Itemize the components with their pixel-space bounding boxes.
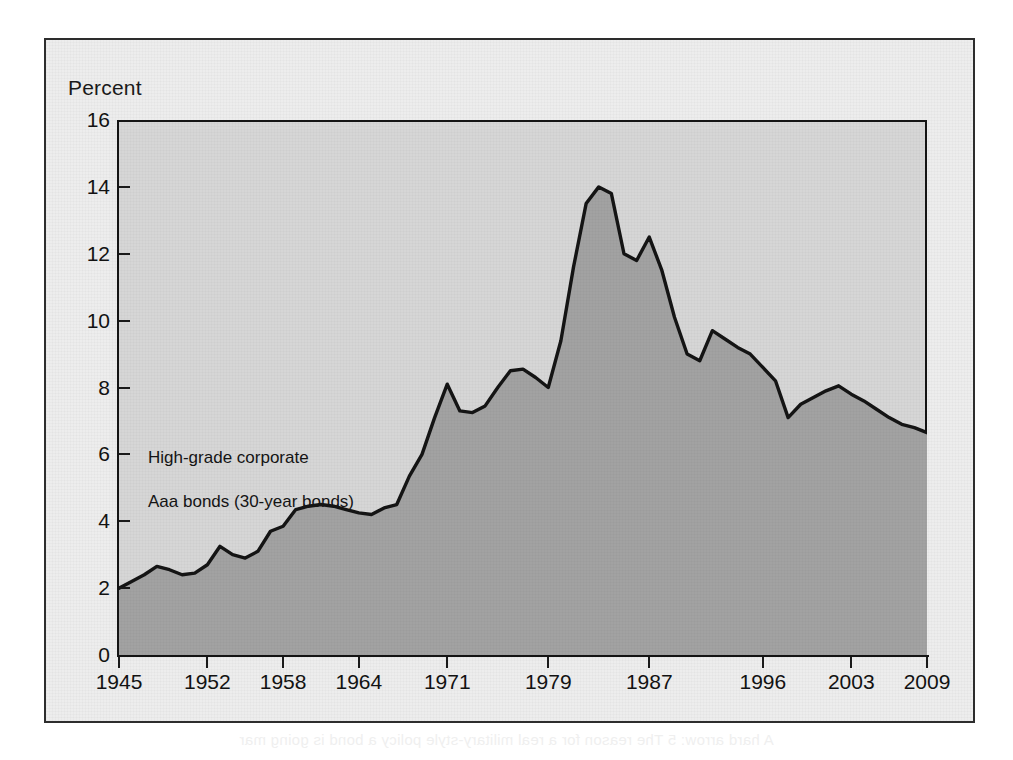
x-tick-mark bbox=[762, 657, 764, 668]
x-tick-mark bbox=[547, 657, 549, 668]
x-tick-mark bbox=[850, 657, 852, 668]
y-tick-mark bbox=[119, 320, 130, 322]
y-tick-label: 14 bbox=[54, 175, 110, 199]
series-annotation-line2: Aaa bonds (30-year bonds) bbox=[148, 492, 354, 511]
x-tick-mark bbox=[926, 657, 928, 668]
y-tick-label: 10 bbox=[54, 309, 110, 333]
page-bleedthrough-top bbox=[0, 6, 1013, 32]
x-axis-line bbox=[117, 655, 929, 657]
x-tick-mark bbox=[446, 657, 448, 668]
plot-area bbox=[119, 120, 927, 655]
y-tick-label: 12 bbox=[54, 242, 110, 266]
x-tick-mark bbox=[118, 657, 120, 668]
series-annotation-line1: High-grade corporate bbox=[148, 448, 309, 467]
y-tick-label: 16 bbox=[54, 108, 110, 132]
x-tick-label: 1952 bbox=[184, 670, 231, 694]
figure-frame: Percent 0246810121416 194519521958196419… bbox=[44, 38, 975, 723]
x-tick-label: 1979 bbox=[525, 670, 572, 694]
x-tick-label: 1987 bbox=[626, 670, 673, 694]
x-tick-mark bbox=[648, 657, 650, 668]
x-tick-label: 1945 bbox=[96, 670, 143, 694]
x-tick-label: 1958 bbox=[260, 670, 307, 694]
y-tick-label: 0 bbox=[54, 643, 110, 667]
x-tick-label: 1971 bbox=[424, 670, 471, 694]
series-area-chart bbox=[119, 120, 927, 655]
y-axis-line bbox=[117, 120, 119, 657]
x-tick-mark bbox=[206, 657, 208, 668]
y-tick-mark bbox=[119, 387, 130, 389]
y-tick-label: 8 bbox=[54, 376, 110, 400]
y-tick-label: 6 bbox=[54, 442, 110, 466]
y-tick-mark bbox=[119, 253, 130, 255]
series-annotation: High-grade corporate Aaa bonds (30-year … bbox=[148, 425, 354, 513]
y-tick-mark bbox=[119, 520, 130, 522]
x-tick-label: 2003 bbox=[828, 670, 875, 694]
x-tick-label: 1996 bbox=[740, 670, 787, 694]
x-tick-mark bbox=[282, 657, 284, 668]
y-tick-mark bbox=[119, 186, 130, 188]
y-tick-label: 2 bbox=[54, 576, 110, 600]
x-tick-label: 1964 bbox=[336, 670, 383, 694]
x-tick-mark bbox=[358, 657, 360, 668]
x-tick-label: 2009 bbox=[904, 670, 951, 694]
y-tick-mark bbox=[119, 587, 130, 589]
y-tick-mark bbox=[119, 453, 130, 455]
page-bleedthrough-bottom: A hard arrow: 5 The reason for a real mi… bbox=[0, 731, 1013, 755]
y-axis-unit-label: Percent bbox=[68, 76, 142, 100]
series-area-fill bbox=[119, 187, 927, 655]
y-tick-label: 4 bbox=[54, 509, 110, 533]
